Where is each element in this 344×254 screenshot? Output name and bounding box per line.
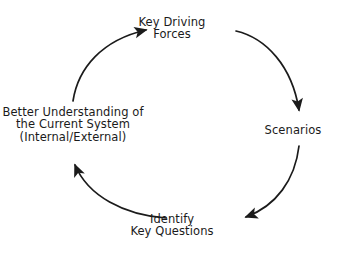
node-better-understanding-line-2: the Current System [2,118,144,130]
arrow-forces-to-scenarios [236,31,299,110]
node-better-understanding-line-3: (Internal/External) [2,131,144,143]
cycle-diagram: Key Driving Forces Scenarios Identify Ke… [0,0,344,254]
node-scenarios-line-1: Scenarios [243,124,343,136]
node-key-driving-forces: Key Driving Forces [0,16,344,41]
node-scenarios: Scenarios [243,124,343,136]
node-identify-key-questions-line-2: Key Questions [0,225,344,237]
arrow-scenarios-to-questions [246,146,299,217]
arrow-questions-to-understanding [75,165,166,218]
node-key-driving-forces-line-2: Forces [0,28,344,40]
node-identify-key-questions: Identify Key Questions [0,213,344,238]
node-better-understanding: Better Understanding of the Current Syst… [2,106,144,143]
